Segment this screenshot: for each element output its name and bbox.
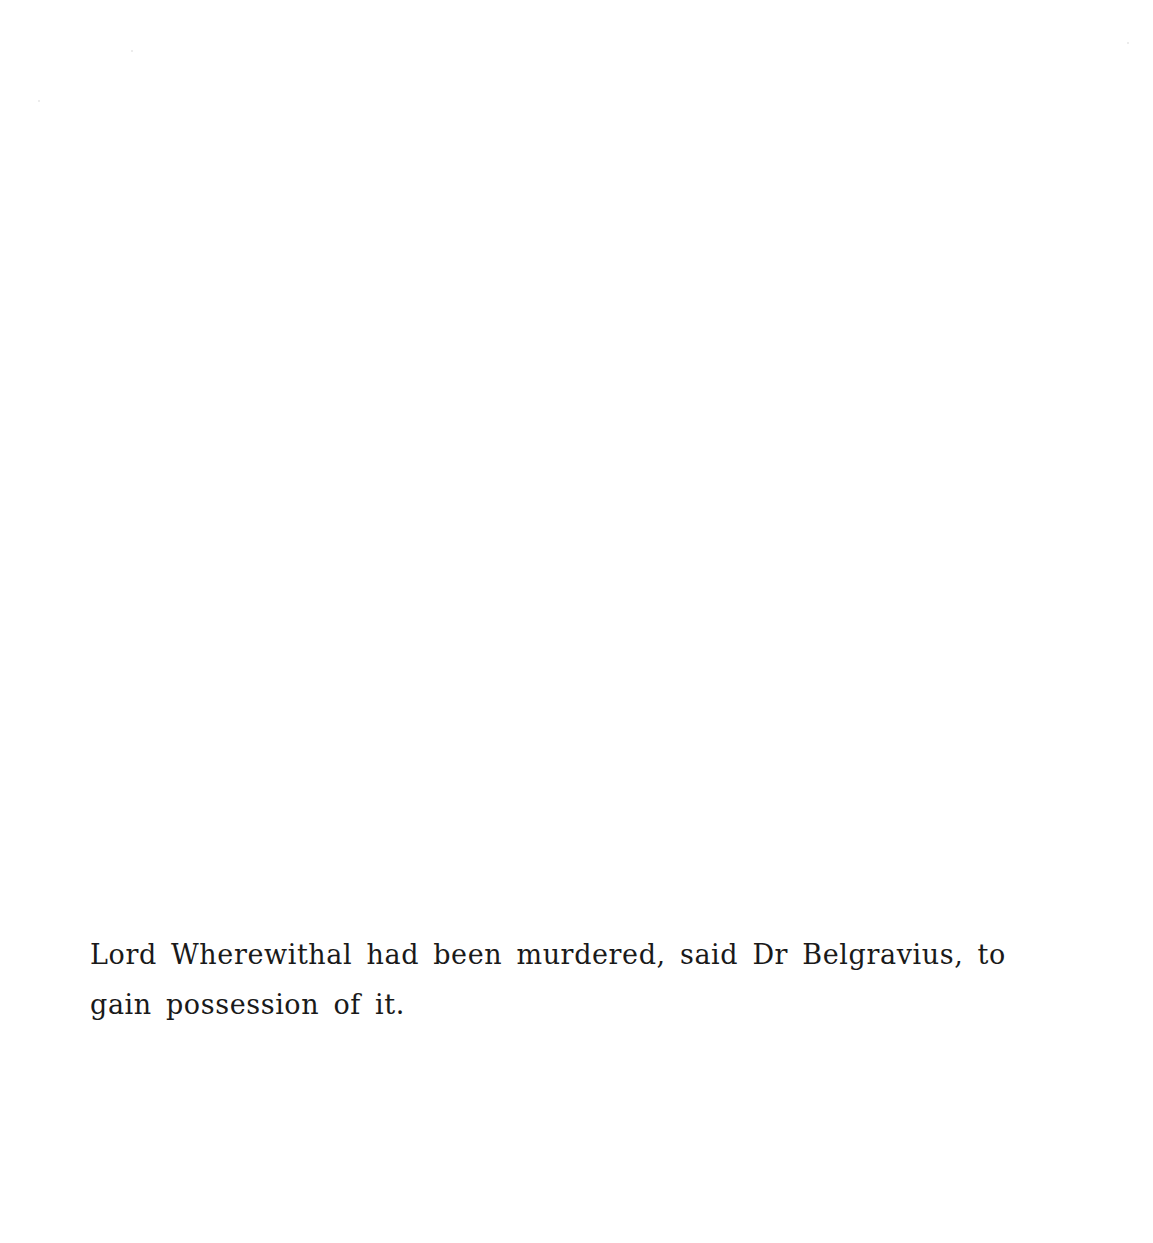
- caption-line-1: Lord Wherewithal had been murdered, said…: [90, 930, 1090, 980]
- scan-speck: [38, 100, 40, 102]
- scan-speck: [1127, 42, 1129, 44]
- book-page: Lord Wherewithal had been murdered, said…: [0, 0, 1153, 1243]
- caption-line-2: gain possession of it.: [90, 980, 1090, 1030]
- caption-text: Lord Wherewithal had been murdered, said…: [90, 930, 1090, 1030]
- scan-speck: [131, 50, 133, 52]
